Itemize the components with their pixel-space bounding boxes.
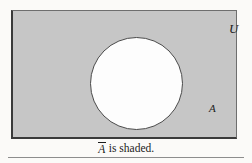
set-a-label: A [209, 102, 216, 115]
figure-caption: A is shaded. [0, 141, 252, 155]
venn-diagram-figure: U A A is shaded. [0, 0, 252, 163]
caption-text: is shaded. [106, 142, 154, 154]
set-a-circle: A [90, 37, 183, 130]
universal-set-rectangle: U A [11, 10, 237, 139]
bottom-divider-rule [8, 157, 244, 158]
complement-a-symbol: A [98, 142, 106, 155]
universal-set-label: U [229, 21, 239, 36]
